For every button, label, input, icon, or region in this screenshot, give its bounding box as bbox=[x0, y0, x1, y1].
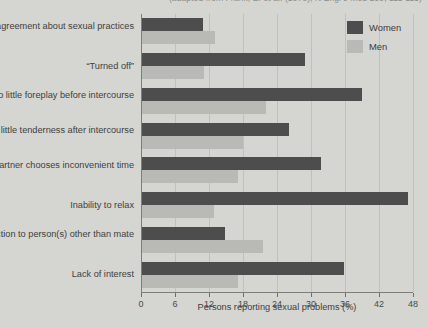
bar-women-0 bbox=[142, 18, 203, 31]
category-label-4: Partner chooses inconvenient time bbox=[0, 160, 134, 171]
bar-women-5 bbox=[142, 192, 408, 205]
gridline-30 bbox=[311, 14, 312, 292]
legend-item-women: Women bbox=[347, 18, 425, 37]
bar-women-7 bbox=[142, 262, 344, 275]
legend-item-men: Men bbox=[347, 37, 425, 56]
bar-men-1 bbox=[142, 66, 204, 79]
chart-legend: Women Men bbox=[347, 18, 425, 56]
category-label-6: Attraction to person(s) other than mate bbox=[0, 229, 134, 240]
x-axis-title: Persons reporting sexual problems (%) bbox=[141, 302, 413, 312]
tick-mark-24 bbox=[277, 293, 278, 297]
legend-label-men: Men bbox=[369, 41, 387, 52]
bar-men-0 bbox=[142, 31, 215, 44]
category-label-2: Too little foreplay before intercourse bbox=[0, 90, 134, 101]
bar-chart-figure: (adapted from Frank, E. et al. (1978), N… bbox=[0, 0, 428, 327]
legend-swatch-men bbox=[347, 40, 363, 53]
tick-mark-18 bbox=[243, 293, 244, 297]
bar-women-4 bbox=[142, 157, 321, 170]
bar-men-5 bbox=[142, 205, 214, 218]
gridline-36 bbox=[345, 14, 346, 292]
header-source-text: (adapted from Frank, E. et al. (1978), N… bbox=[169, 0, 422, 3]
bar-men-7 bbox=[142, 275, 238, 288]
category-label-5: Inability to relax bbox=[0, 200, 134, 211]
bar-women-3 bbox=[142, 123, 289, 136]
category-label-0: Disagreement about sexual practices bbox=[0, 21, 134, 32]
bar-men-4 bbox=[142, 170, 238, 183]
tick-mark-42 bbox=[379, 293, 380, 297]
legend-label-women: Women bbox=[369, 22, 401, 33]
bar-women-6 bbox=[142, 227, 225, 240]
bar-men-6 bbox=[142, 240, 263, 253]
legend-swatch-women bbox=[347, 21, 363, 34]
category-label-7: Lack of interest bbox=[0, 269, 134, 280]
category-label-3: Too little tenderness after intercourse bbox=[0, 125, 134, 136]
tick-mark-6 bbox=[175, 293, 176, 297]
tick-mark-12 bbox=[209, 293, 210, 297]
tick-mark-0 bbox=[141, 293, 142, 297]
cropped-header-strip: (adapted from Frank, E. et al. (1978), N… bbox=[0, 0, 428, 12]
tick-mark-30 bbox=[311, 293, 312, 297]
category-label-1: “Turned off” bbox=[0, 61, 134, 72]
bar-women-1 bbox=[142, 53, 305, 66]
tick-mark-36 bbox=[345, 293, 346, 297]
tick-mark-48 bbox=[413, 293, 414, 297]
bar-women-2 bbox=[142, 88, 362, 101]
bar-men-2 bbox=[142, 101, 266, 114]
bar-men-3 bbox=[142, 136, 243, 149]
